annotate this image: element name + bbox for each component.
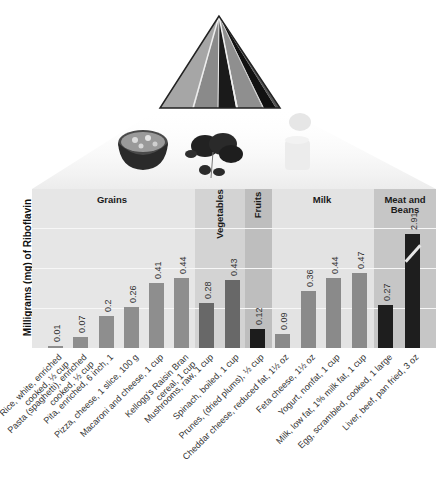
value-pizza: 0.26: [128, 285, 138, 303]
bar-feta[interactable]: [301, 291, 316, 348]
value-milk: 0.47: [356, 251, 366, 269]
section-label-meat: Meat and Beans: [374, 195, 436, 215]
value-raisin-bran: 0.44: [178, 256, 188, 274]
bar-mushrooms[interactable]: [199, 303, 214, 348]
bar-macaroni[interactable]: [149, 283, 164, 348]
yogurt-cup-icon: [280, 112, 316, 174]
value-spinach: 0.43: [229, 258, 239, 276]
section-label-grains: Grains: [82, 195, 142, 205]
value-pita: 0.2: [103, 299, 113, 312]
bar-milk[interactable]: [352, 273, 367, 348]
section-label-milk: Milk: [302, 195, 342, 205]
bar-pizza[interactable]: [124, 307, 139, 348]
bar-rice[interactable]: [48, 346, 63, 348]
value-liver: 2.91: [409, 212, 419, 230]
value-pasta: 0.07: [77, 315, 87, 333]
gridline-075: [32, 228, 436, 229]
value-egg: 0.27: [382, 283, 392, 301]
bar-yogurt[interactable]: [326, 278, 341, 348]
value-mushrooms: 0.28: [203, 281, 213, 299]
value-macaroni: 0.41: [153, 261, 163, 279]
value-cheddar: 0.09: [279, 312, 289, 330]
bar-spinach[interactable]: [225, 280, 240, 348]
bar-raisin-bran[interactable]: [174, 278, 189, 348]
value-yogurt: 0.44: [330, 256, 340, 274]
value-prunes: 0.12: [254, 307, 264, 325]
bar-cheddar[interactable]: [275, 334, 290, 348]
value-feta: 0.36: [305, 269, 315, 287]
chart-plot-area: Grains Vegetables Fruits Milk Meat and B…: [32, 189, 436, 348]
bar-pasta[interactable]: [73, 337, 88, 348]
section-label-vegetables: Vegetables: [215, 184, 225, 244]
bar-prunes[interactable]: [250, 329, 265, 348]
value-rice: 0.01: [52, 324, 62, 342]
bar-egg[interactable]: [378, 305, 393, 348]
bar-pita[interactable]: [99, 316, 114, 348]
spinach-icon: [183, 130, 248, 182]
cereal-bowl-icon: [115, 125, 171, 175]
y-axis-label: Milligrams (mg) of Riboflavin: [22, 188, 33, 348]
food-pyramid-icon: [0, 0, 445, 120]
section-label-fruits: Fruits: [253, 180, 263, 230]
